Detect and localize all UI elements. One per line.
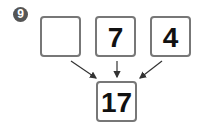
arrow-left	[71, 61, 96, 78]
arrow-right	[140, 61, 162, 78]
sum-box-17: 17	[96, 81, 137, 122]
